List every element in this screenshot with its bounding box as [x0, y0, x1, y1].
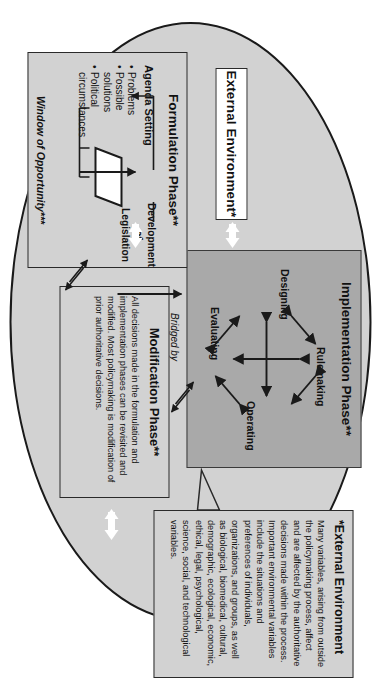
modification-phase-title: Modification Phase** — [146, 296, 161, 488]
development-of-legislation-label: Development of Legislation — [118, 203, 156, 267]
agenda-setting-label: Agenda Setting — [142, 65, 154, 146]
modification-phase-box: Modification Phase** All decisions made … — [59, 286, 169, 498]
bullet-solutions: solutions — [101, 72, 112, 112]
formulation-phase-title: Formulation Phase** — [165, 53, 180, 267]
development-line-2: of — [131, 203, 144, 267]
external-environment-note-title: *External Environment — [331, 520, 345, 668]
implementation-phase-title: Implementation Phase** — [338, 251, 353, 467]
diagram-canvas: External Environment* Implementation Pha… — [0, 0, 379, 692]
agenda-setting-bullets: •Problems •Possible solutions •Political… — [75, 65, 136, 137]
development-line-1: Development — [143, 203, 156, 267]
formulation-phase-box: Formulation Phase** Agenda Setting •Prob… — [27, 52, 187, 268]
external-environment-label: External Environment* — [215, 68, 247, 220]
node-operating: Operating — [244, 401, 256, 451]
bullet-political: Political — [88, 72, 99, 107]
bullet-problems: Problems — [125, 72, 136, 115]
external-environment-note-text: Many variables, arising from outside the… — [167, 520, 326, 668]
bullet-possible: Possible — [113, 72, 124, 111]
implementation-phase-cycle: Designing Rulemaking Operating Evaluatin… — [188, 251, 332, 467]
development-line-3: Legislation — [118, 203, 131, 267]
node-rulemaking: Rulemaking — [314, 347, 326, 407]
node-designing: Designing — [278, 269, 290, 320]
diagram-stage: External Environment* Implementation Pha… — [0, 0, 379, 692]
implementation-phase-box: Implementation Phase** Designing Rulemak… — [186, 250, 361, 468]
window-of-opportunity-label: Window of Opportunity*** — [34, 53, 46, 267]
external-environment-label-text: External Environment* — [224, 71, 239, 218]
external-environment-note-box: *External Environment Many variables, ar… — [153, 510, 353, 678]
modification-phase-text: All decisions made in the formulation an… — [91, 296, 140, 488]
node-evaluating: Evaluating — [208, 307, 220, 360]
bullet-circumstances: circumstances — [76, 72, 87, 137]
